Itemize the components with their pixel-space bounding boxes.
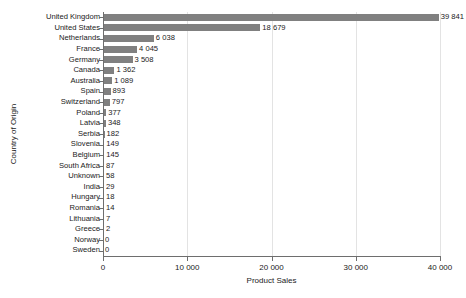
y-axis-tick xyxy=(99,60,103,61)
y-axis-tick xyxy=(99,229,103,230)
bar-value-label: 58 xyxy=(106,172,114,180)
y-axis-tick xyxy=(99,102,103,103)
category-label: Lithuania xyxy=(14,215,100,223)
category-label: Serbia xyxy=(14,130,100,138)
bar-value-label: 39 841 xyxy=(441,13,464,21)
category-label: United States xyxy=(14,24,100,32)
x-axis-tick xyxy=(103,257,104,261)
category-label: Latvia xyxy=(14,119,100,127)
y-axis-tick xyxy=(99,208,103,209)
gridline xyxy=(272,12,273,256)
y-axis-tick xyxy=(99,240,103,241)
x-axis-tick-label: 40 000 xyxy=(428,263,452,273)
category-label: Unknown xyxy=(14,172,100,180)
category-label: France xyxy=(14,45,100,53)
bar[interactable] xyxy=(103,88,111,95)
category-label: Belgium xyxy=(14,151,100,159)
gridline xyxy=(440,12,441,256)
bar[interactable] xyxy=(103,46,137,53)
x-axis-tick xyxy=(272,257,273,261)
bar-value-label: 4 045 xyxy=(139,45,158,53)
category-label: Norway xyxy=(14,236,100,244)
category-label: Canada xyxy=(14,66,100,74)
y-axis-tick xyxy=(99,123,103,124)
bar[interactable] xyxy=(103,35,154,42)
bar-chart: Country of Origin United KingdomUnited S… xyxy=(0,0,466,298)
category-label: Spain xyxy=(14,87,100,95)
bar-value-label: 6 038 xyxy=(156,34,175,42)
y-axis-tick xyxy=(99,166,103,167)
bar-value-label: 1 089 xyxy=(114,77,133,85)
y-axis-tick xyxy=(99,176,103,177)
x-axis-title: Product Sales xyxy=(103,276,440,285)
bar-value-label: 182 xyxy=(107,130,120,138)
bar-value-label: 893 xyxy=(113,87,126,95)
bar[interactable] xyxy=(103,67,114,74)
x-axis-tick xyxy=(440,257,441,261)
x-axis-tick-label: 0 xyxy=(101,263,105,273)
bar[interactable] xyxy=(103,24,260,31)
bar-value-label: 7 xyxy=(106,215,110,223)
bar-value-label: 0 xyxy=(105,236,109,244)
category-label: United Kingdom xyxy=(14,13,100,21)
x-axis-tick xyxy=(187,257,188,261)
category-label: Poland xyxy=(14,109,100,117)
y-axis-tick xyxy=(99,81,103,82)
category-label: Slovenia xyxy=(14,140,100,148)
y-axis-tick xyxy=(99,49,103,50)
bar-value-label: 87 xyxy=(106,162,114,170)
bar[interactable] xyxy=(103,14,439,21)
y-axis-line xyxy=(103,12,104,257)
gridline xyxy=(356,12,357,256)
bar-value-label: 377 xyxy=(108,109,121,117)
category-label: Netherlands xyxy=(14,34,100,42)
bar-value-label: 18 xyxy=(106,193,114,201)
y-axis-tick xyxy=(99,251,103,252)
x-axis-tick-label: 10 000 xyxy=(175,263,199,273)
bar-value-label: 0 xyxy=(105,246,109,254)
bar-value-label: 2 xyxy=(106,225,110,233)
y-axis-tick xyxy=(99,134,103,135)
x-axis-tick xyxy=(356,257,357,261)
y-axis-tick xyxy=(99,70,103,71)
gridline xyxy=(187,12,188,256)
y-axis-tick xyxy=(99,39,103,40)
bar-value-label: 149 xyxy=(106,140,119,148)
bar[interactable] xyxy=(103,77,112,84)
bar-value-label: 18 679 xyxy=(262,24,285,32)
bar[interactable] xyxy=(103,56,133,63)
category-label: Greece xyxy=(14,225,100,233)
y-axis-tick-labels: United KingdomUnited StatesNetherlandsFr… xyxy=(14,12,100,256)
bar-value-label: 29 xyxy=(106,183,114,191)
x-axis-tick-label: 30 000 xyxy=(344,263,368,273)
category-label: Romania xyxy=(14,204,100,212)
bar-value-label: 348 xyxy=(108,119,121,127)
y-axis-tick xyxy=(99,28,103,29)
y-axis-tick xyxy=(99,198,103,199)
y-axis-tick xyxy=(99,92,103,93)
bar-value-label: 797 xyxy=(112,98,125,106)
category-label: South Africa xyxy=(14,162,100,170)
y-axis-tick xyxy=(99,17,103,18)
plot-area: 39 84118 6796 0384 0453 5081 3621 089893… xyxy=(103,12,440,256)
bar-value-label: 145 xyxy=(106,151,119,159)
category-label: India xyxy=(14,183,100,191)
y-axis-tick xyxy=(99,155,103,156)
y-axis-tick xyxy=(99,145,103,146)
bar-value-label: 14 xyxy=(106,204,114,212)
bar[interactable] xyxy=(103,99,110,106)
category-label: Switzerland xyxy=(14,98,100,106)
category-label: Australia xyxy=(14,77,100,85)
category-label: Sweden xyxy=(14,246,100,254)
y-axis-tick xyxy=(99,113,103,114)
category-label: Hungary xyxy=(14,193,100,201)
bar-value-label: 1 362 xyxy=(116,66,135,74)
y-axis-tick xyxy=(99,219,103,220)
y-axis-tick xyxy=(99,187,103,188)
category-label: Germany xyxy=(14,56,100,64)
bar-value-label: 3 508 xyxy=(135,56,154,64)
x-axis-tick-label: 20 000 xyxy=(259,263,283,273)
